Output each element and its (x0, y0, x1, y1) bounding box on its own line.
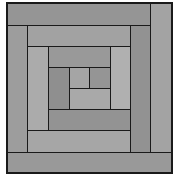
outer-frame (6, 2, 173, 174)
block-title: Log cabin quilt block (0, 0, 1, 1)
